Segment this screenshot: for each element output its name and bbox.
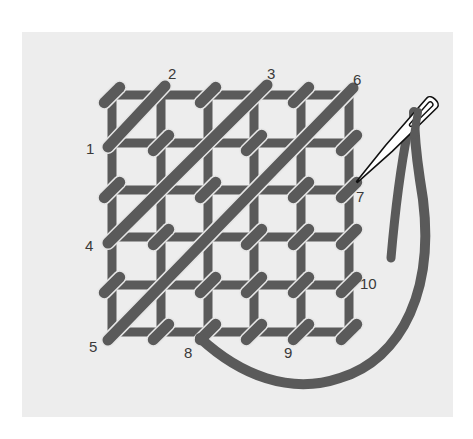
step-label-1: 1	[86, 140, 94, 157]
couching-stitch	[293, 87, 308, 102]
step-label-4: 4	[85, 237, 93, 254]
step-label-9: 9	[284, 344, 292, 361]
step-label-10: 10	[360, 275, 377, 292]
couching-stitch	[341, 182, 356, 197]
couching-stitch	[153, 324, 168, 339]
couching-stitch	[293, 277, 308, 292]
couching-stitch	[341, 135, 356, 150]
couching-stitch	[293, 324, 308, 339]
couching-stitch	[200, 87, 215, 102]
step-label-8: 8	[184, 344, 192, 361]
couching-stitch	[293, 229, 308, 244]
step-label-7: 7	[356, 188, 364, 205]
step-label-5: 5	[89, 338, 97, 355]
couching-stitch	[293, 182, 308, 197]
stitch-diagram: 12364710589	[0, 0, 473, 439]
diagonal-stitches	[108, 85, 353, 340]
step-label-2: 2	[168, 65, 176, 82]
step-label-6: 6	[353, 71, 361, 88]
couching-stitch	[246, 229, 261, 244]
couching-stitch	[246, 277, 261, 292]
couching-stitch	[246, 324, 261, 339]
couching-stitch	[246, 135, 261, 150]
couching-stitch	[104, 277, 119, 292]
diagonal-stitch-4-3	[108, 85, 267, 243]
couching-stitch	[341, 324, 356, 339]
couching-stitch	[153, 135, 168, 150]
couching-stitch	[341, 277, 356, 292]
couching-stitch	[153, 229, 168, 244]
couching-stitch	[104, 87, 119, 102]
step-label-3: 3	[267, 65, 275, 82]
couching-stitch	[341, 229, 356, 244]
couching-stitch	[200, 277, 215, 292]
couching-stitch	[200, 182, 215, 197]
couching-stitch	[104, 182, 119, 197]
